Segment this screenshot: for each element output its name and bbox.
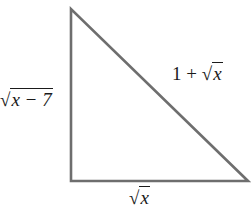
hypotenuse-radical: √x [202, 64, 223, 83]
left-leg-radical: √x − 7 [0, 90, 53, 109]
sqrt-symbol: √ [0, 89, 10, 110]
sqrt-symbol: √ [129, 187, 139, 208]
bottom-leg-radicand: x [139, 186, 149, 208]
hypotenuse-label: 1 + √x [172, 64, 223, 83]
hypotenuse-prefix: 1 + [172, 63, 202, 84]
left-leg-radicand: x − 7 [10, 88, 52, 110]
bottom-leg-radical: √x [129, 188, 150, 207]
left-leg-label: √x − 7 [0, 90, 53, 109]
hypotenuse-radicand: x [212, 62, 222, 84]
bottom-leg-label: √x [129, 188, 150, 207]
sqrt-symbol: √ [202, 63, 212, 84]
triangle-shape [71, 9, 248, 181]
